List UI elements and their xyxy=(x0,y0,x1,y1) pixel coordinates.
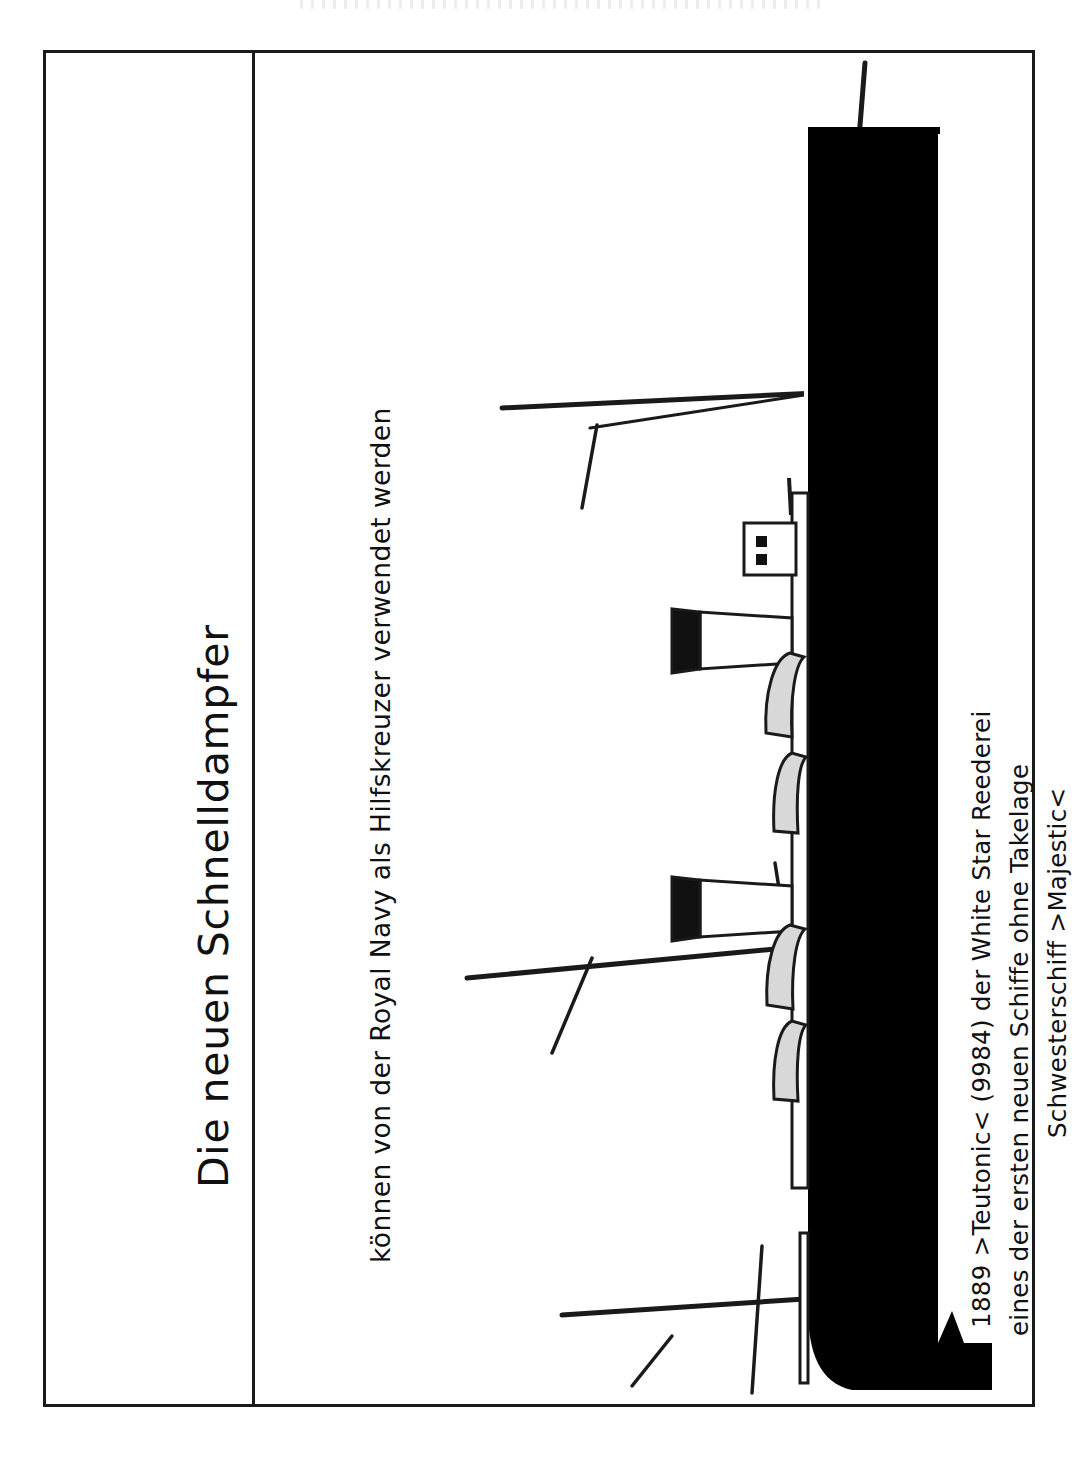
ventilators-group xyxy=(766,653,806,1101)
funnel-forward xyxy=(700,612,792,669)
bridge-window xyxy=(756,536,767,547)
bridge-house xyxy=(744,523,796,575)
funnel-aft xyxy=(700,880,792,937)
caption-line-1: 1889 >Teutonic< (9984) der White Star Re… xyxy=(970,711,995,1329)
caption-line-3: Schwesterschiff >Majestic< xyxy=(1046,788,1071,1138)
main-deckhouse xyxy=(792,493,808,1188)
rigging-group xyxy=(467,63,865,1393)
fore-mast xyxy=(562,1298,820,1315)
page-frame: Die neuen Schnelldampfer können von der … xyxy=(43,50,1035,1407)
bridge-group xyxy=(744,478,796,575)
aft-deckhouse xyxy=(800,1233,808,1383)
funnel-aft-cap xyxy=(672,877,700,941)
ship-hull xyxy=(808,131,992,1390)
ventilator xyxy=(774,753,806,833)
aft-mast xyxy=(502,393,817,408)
page-subtitle: können von der Royal Navy als Hilfskreuz… xyxy=(368,407,395,1263)
aft-mast-stay-a xyxy=(590,393,817,428)
bridge-window xyxy=(756,554,767,565)
aft-mast-spar xyxy=(582,425,597,508)
funnel-forward-cap xyxy=(672,609,700,673)
page-title: Die neuen Schnelldampfer xyxy=(194,624,235,1188)
fore-mast-vertical xyxy=(752,1246,762,1393)
column-divider xyxy=(252,53,255,1404)
funnels-group xyxy=(672,609,792,941)
caption-line-2: eines der ersten neuen Schiffe ohne Take… xyxy=(1008,764,1033,1336)
hull-bow-cap xyxy=(808,127,940,134)
aft-mast-upper xyxy=(812,323,827,398)
ventilator xyxy=(767,925,805,1009)
flagstaff xyxy=(859,63,865,138)
scanner-artifact xyxy=(300,0,820,9)
fore-mast-spar xyxy=(632,1336,672,1386)
superstructure-group xyxy=(792,493,808,1383)
deck-strip xyxy=(804,131,826,1381)
ventilator xyxy=(766,653,804,737)
main-mast-spar xyxy=(552,958,592,1053)
main-mast-upper xyxy=(775,863,790,958)
main-mast xyxy=(467,945,817,978)
ventilator xyxy=(774,1021,806,1101)
bridge-mast xyxy=(789,478,791,515)
